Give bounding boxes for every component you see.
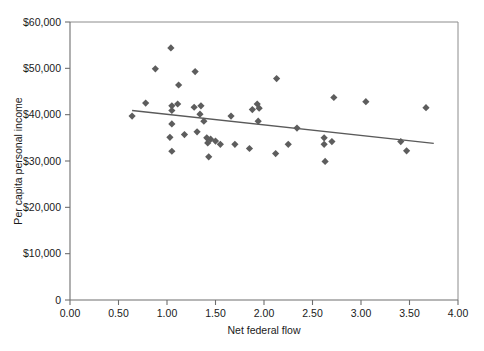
y-tick-label: $30,000 [23, 155, 61, 167]
y-tick-label: $20,000 [23, 201, 61, 213]
chart-canvas: 0$10,000$20,000$30,000$40,000$50,000$60,… [0, 0, 484, 351]
y-tick-label: $40,000 [23, 108, 61, 120]
x-tick-label: 0.50 [108, 307, 129, 319]
chart-background [0, 0, 484, 351]
scatter-chart-figure: 0$10,000$20,000$30,000$40,000$50,000$60,… [0, 0, 484, 351]
x-tick-label: 3.50 [399, 307, 420, 319]
x-tick-label: 2.00 [254, 307, 275, 319]
y-axis-title: Per capita personal income [12, 97, 24, 224]
x-tick-label: 1.00 [157, 307, 178, 319]
y-tick-label: $50,000 [23, 62, 61, 74]
x-axis-title: Net federal flow [228, 324, 301, 336]
x-tick-label: 2.50 [302, 307, 323, 319]
x-tick-label: 3.00 [351, 307, 372, 319]
y-tick-label: $10,000 [23, 247, 61, 259]
x-tick-label: 1.50 [205, 307, 226, 319]
x-axis-tick-labels: 0.000.501.001.502.002.503.003.504.00 [60, 307, 469, 319]
y-tick-label: 0 [55, 294, 61, 306]
y-tick-label: $60,000 [23, 16, 61, 28]
x-tick-label: 4.00 [448, 307, 469, 319]
x-tick-label: 0.00 [60, 307, 81, 319]
